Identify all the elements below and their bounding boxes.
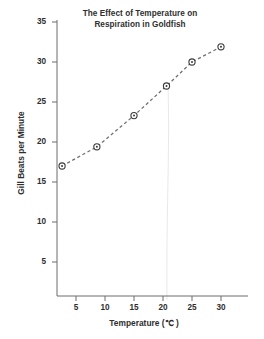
x-tick-label-20: 20 xyxy=(154,303,172,312)
chart-figure: The Effect of Temperature on Respiration… xyxy=(0,0,264,339)
x-tick-label-10: 10 xyxy=(96,303,114,312)
data-point-center-dot xyxy=(96,146,98,148)
y-tick-label-25: 25 xyxy=(28,97,46,106)
y-tick-label-35: 35 xyxy=(28,17,46,26)
scan-artifact-line xyxy=(167,86,169,300)
x-tick-label-30: 30 xyxy=(212,303,230,312)
plot-area xyxy=(0,0,264,339)
x-tick-label-25: 25 xyxy=(183,303,201,312)
y-tick-label-30: 30 xyxy=(28,57,46,66)
data-point-center-dot xyxy=(220,46,222,48)
data-series-line xyxy=(62,47,221,166)
y-axis-ticks xyxy=(52,22,57,262)
x-tick-label-5: 5 xyxy=(67,303,85,312)
data-point-center-dot xyxy=(191,61,193,63)
data-point-center-dot xyxy=(165,85,167,87)
data-point-center-dot xyxy=(133,115,135,117)
x-axis-ticks xyxy=(76,296,221,301)
y-tick-label-10: 10 xyxy=(28,217,46,226)
data-point-center-dot xyxy=(61,165,63,167)
y-tick-label-15: 15 xyxy=(28,177,46,186)
data-point-markers xyxy=(59,44,224,169)
y-tick-label-20: 20 xyxy=(28,137,46,146)
x-tick-label-15: 15 xyxy=(125,303,143,312)
y-tick-label-5: 5 xyxy=(28,257,46,266)
